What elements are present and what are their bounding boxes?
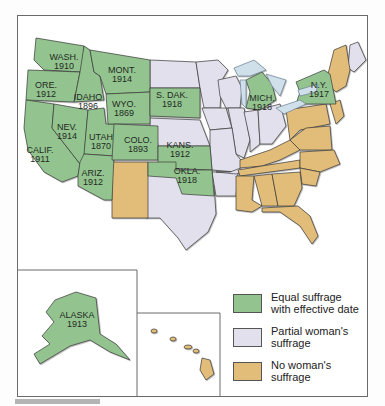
legend-swatch-equal (233, 294, 262, 313)
svg-text:1918: 1918 (177, 175, 197, 185)
svg-text:1896: 1896 (78, 101, 98, 111)
svg-text:1918: 1918 (252, 102, 272, 112)
state-north-carolina (300, 150, 340, 172)
svg-text:1918: 1918 (162, 99, 182, 109)
legend-label: Partial woman's suffrage (271, 326, 348, 349)
state-new-mexico (112, 162, 148, 218)
state-florida (262, 206, 318, 244)
svg-text:1912: 1912 (83, 177, 103, 187)
legend-swatch-none (233, 362, 262, 381)
legend-label: Equal suffrage with effective date (271, 292, 359, 315)
svg-text:1912: 1912 (36, 89, 56, 99)
svg-text:1912: 1912 (170, 149, 190, 159)
svg-text:1913: 1913 (67, 319, 87, 329)
state-north-dakota (150, 60, 200, 88)
svg-text:1893: 1893 (128, 144, 148, 154)
legend-item-equal: Equal suffrage with effective date (233, 292, 373, 326)
svg-text:1869: 1869 (114, 108, 134, 118)
svg-text:1914: 1914 (112, 74, 132, 84)
map-legend: Equal suffrage with effective date Parti… (233, 292, 373, 394)
state-arkansas (212, 172, 238, 196)
svg-text:1910: 1910 (54, 61, 74, 71)
legend-item-none: No woman's suffrage (233, 360, 373, 394)
state-wisconsin (218, 76, 242, 108)
svg-text:1870: 1870 (91, 141, 111, 151)
state-maine (348, 42, 366, 72)
legend-item-partial: Partial woman's suffrage (233, 326, 373, 360)
bottom-bar (15, 399, 100, 404)
state-iowa (202, 108, 232, 130)
legend-swatch-partial (233, 328, 262, 347)
svg-text:1917: 1917 (309, 89, 329, 99)
legend-label: No woman's suffrage (271, 360, 331, 383)
state-hawaii (151, 329, 214, 380)
svg-text:1914: 1914 (57, 131, 77, 141)
svg-text:1911: 1911 (30, 154, 49, 164)
